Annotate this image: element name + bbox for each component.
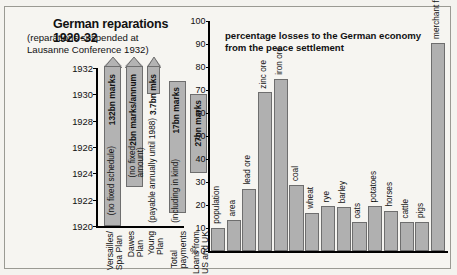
right-plot-area: % 0102030405060708090100populationareale… xyxy=(210,21,446,251)
right-y-tickmark-0 xyxy=(206,251,210,252)
left-y-tick-1924: 1924 xyxy=(72,168,93,179)
left-bar-arrow-outline-0 xyxy=(104,57,122,68)
right-bar-population xyxy=(211,228,225,251)
left-y-tickmark-1928 xyxy=(93,121,97,122)
right-bar-label-merchant-fleet: merchant fleet xyxy=(433,0,441,39)
right-bar-cattle xyxy=(400,222,414,251)
right-y-tick-100: 100 xyxy=(190,16,205,26)
left-y-tick-1920: 1920 xyxy=(72,221,93,232)
right-y-tick-40: 40 xyxy=(195,154,205,164)
left-x-label-3: Totalpayments xyxy=(170,231,188,268)
right-bar-label-barley: barley xyxy=(339,181,347,203)
left-bar-note-2: (payable annually until 1988) xyxy=(149,118,157,223)
right-bar-label-area: area xyxy=(229,200,237,216)
left-bar-note-0-line-1: (no fixed schedule) xyxy=(108,146,116,215)
right-y-tick-70: 70 xyxy=(195,85,205,95)
left-chart-subtitle-line-1: (reparations suspended at xyxy=(27,32,149,44)
left-chart-subtitle-line-2: Lausanne Conference 1932) xyxy=(27,44,149,56)
right-y-tick-20: 20 xyxy=(195,200,205,210)
right-y-tick-60: 60 xyxy=(195,108,205,118)
right-bar-horses xyxy=(384,211,398,251)
right-bar-rye xyxy=(321,206,335,251)
left-x-label-1-line-2: Plan xyxy=(136,231,145,257)
right-bar-label-oats: oats xyxy=(354,203,362,218)
right-x-axis-line xyxy=(208,251,448,253)
right-chart-panel: percentage losses to the German economyf… xyxy=(187,7,452,270)
right-y-tickmark-50 xyxy=(206,136,210,137)
left-bar-note-3-line-1: (including in kind) xyxy=(172,159,180,223)
left-x-label-0: Versailles/Spa Plan xyxy=(106,231,124,270)
left-y-tickmark-1926 xyxy=(93,147,97,148)
left-bar-amount-2: 3.7bn mks xyxy=(149,74,158,115)
right-bar-lead-ore xyxy=(242,189,256,251)
right-bar-area xyxy=(227,220,241,251)
left-y-tickmark-1930 xyxy=(93,94,97,95)
left-y-tick-1922: 1922 xyxy=(72,194,93,205)
right-bar-merchant-fleet xyxy=(431,43,445,251)
right-y-tick-50: 50 xyxy=(195,131,205,141)
left-bar-note-0: (no fixed schedule) xyxy=(108,146,116,215)
right-bar-wheat xyxy=(305,213,319,251)
right-y-tickmark-100 xyxy=(206,21,210,22)
left-bar-amount-3: 17bn marks xyxy=(172,87,181,134)
left-bar-amount-1: 2bn marks/annum xyxy=(129,74,138,146)
right-bar-barley xyxy=(337,207,351,251)
right-y-tick-10: 10 xyxy=(195,223,205,233)
right-y-tickmark-30 xyxy=(206,182,210,183)
left-x-label-2-line-2: Plan xyxy=(155,231,164,255)
left-bar-note-1: (no fixedamount) xyxy=(129,146,146,177)
right-bar-label-coal: coal xyxy=(292,166,300,181)
right-bar-coal xyxy=(289,185,303,251)
right-bar-label-lead-ore: lead ore xyxy=(244,155,252,185)
left-y-tickmark-1924 xyxy=(93,173,97,174)
right-y-tickmark-80 xyxy=(206,67,210,68)
right-bar-label-rye: rye xyxy=(323,191,331,202)
left-y-tickmark-1920 xyxy=(93,226,97,227)
left-y-tickmark-1922 xyxy=(93,200,97,201)
left-bar-note-2-line-1: (payable annually until 1988) xyxy=(149,118,157,223)
left-y-tickmark-1932 xyxy=(93,68,97,69)
right-bar-label-zinc-ore: zinc ore xyxy=(260,60,268,89)
right-y-tickmark-10 xyxy=(206,228,210,229)
left-bar-arrow-outline-2 xyxy=(147,57,161,68)
left-x-axis-line xyxy=(96,226,184,228)
left-y-tick-1928: 1928 xyxy=(72,115,93,126)
left-chart-panel: German reparations 1920-32 (reparations … xyxy=(5,7,187,270)
right-y-tick-80: 80 xyxy=(195,62,205,72)
left-bar-note-3: (including in kind) xyxy=(172,159,180,223)
right-bar-label-wheat: wheat xyxy=(307,187,315,209)
left-bar-arrow-outline-1 xyxy=(125,57,143,68)
right-bar-label-iron-ore: iron ore xyxy=(276,47,284,75)
left-chart-subtitle: (reparations suspended atLausanne Confer… xyxy=(27,32,149,55)
right-bar-label-horses: horses xyxy=(386,182,394,207)
right-bar-potatoes xyxy=(368,206,382,251)
right-bar-pigs xyxy=(415,222,429,251)
left-x-label-1: DawesPlan xyxy=(127,231,145,257)
right-y-tick-30: 30 xyxy=(195,177,205,187)
right-bar-iron-ore xyxy=(274,79,288,252)
right-y-tickmark-90 xyxy=(206,44,210,45)
figure-frame: German reparations 1920-32 (reparations … xyxy=(4,6,451,269)
right-bar-label-potatoes: potatoes xyxy=(370,171,378,202)
left-x-label-2: YoungPlan xyxy=(147,231,165,255)
right-bar-oats xyxy=(352,222,366,251)
right-y-tickmark-70 xyxy=(206,90,210,91)
right-y-tickmark-20 xyxy=(206,205,210,206)
right-bar-zinc-ore xyxy=(258,92,272,251)
right-y-tickmark-40 xyxy=(206,159,210,160)
right-y-tick-90: 90 xyxy=(195,39,205,49)
right-bar-label-pigs: pigs xyxy=(417,203,425,218)
right-y-tick-0: % 0 xyxy=(190,246,206,256)
right-bar-label-population: population xyxy=(213,186,221,224)
right-bar-label-cattle: cattle xyxy=(402,199,410,219)
left-y-tick-1926: 1926 xyxy=(72,142,93,153)
left-y-tick-1930: 1930 xyxy=(72,89,93,100)
left-y-tick-1932: 1932 xyxy=(72,63,93,74)
left-bar-note-1-line-2: amount) xyxy=(137,146,145,177)
left-bar-amount-0: 132bn marks xyxy=(108,74,117,125)
left-x-label-0-line-2: Spa Plan xyxy=(114,231,123,270)
right-y-tickmark-60 xyxy=(206,113,210,114)
